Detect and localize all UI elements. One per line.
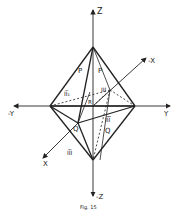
label-neg-z: -Z [96, 193, 104, 201]
region-label-lower-right: II̅I̅ [105, 116, 112, 123]
label-neg-x: -X [148, 57, 155, 65]
face-label-p-left: P [78, 67, 82, 75]
face-label-p-right: P [98, 67, 102, 75]
label-y: Y [163, 110, 169, 118]
label-x: X [43, 160, 48, 168]
label-neg-y: -Y [8, 110, 15, 118]
axes [14, 10, 170, 196]
region-label-lower-left: II̅I [67, 149, 73, 156]
figure-caption: Fig. 15 [80, 204, 97, 210]
face-label-q-front: Q [73, 125, 79, 133]
hidden-edges [50, 90, 135, 160]
neg-x-axis [93, 58, 146, 106]
region-label-upper-left: II̅₁ [64, 90, 71, 97]
region-label-upper-right: III [101, 86, 107, 93]
face-label-q-right: Q [105, 127, 111, 135]
labels: Z -Z Y -Y -X X P P R Q Q II̅₁ III II̅I̅ … [8, 7, 169, 210]
label-z: Z [97, 7, 103, 16]
solid-edges [50, 47, 135, 160]
octahedron-diagram: Z -Z Y -Y -X X P P R Q Q II̅₁ III II̅I̅ … [0, 0, 177, 210]
face-label-r: R [88, 99, 92, 105]
